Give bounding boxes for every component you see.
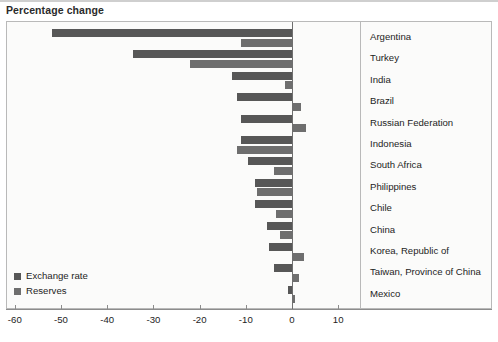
axis-tick [15, 305, 16, 310]
axis-tick-label: -60 [8, 314, 22, 325]
country-label: Argentina [370, 32, 411, 42]
bar-exchange-rate [241, 115, 292, 123]
bar-exchange-rate [274, 264, 292, 272]
legend-swatch-icon [14, 273, 21, 280]
axis-tick [153, 305, 154, 310]
country-label: Turkey [370, 53, 399, 63]
axis-tick-label: -40 [100, 314, 114, 325]
bar-reserves [280, 231, 292, 239]
country-label: Indonesia [370, 139, 412, 149]
x-axis: -60-50-40-30-20-10010 [6, 309, 492, 342]
legend-item: Exchange rate [14, 270, 88, 282]
country-label: Mexico [370, 289, 400, 299]
axis-tick-label: -10 [239, 314, 253, 325]
bar-exchange-rate [232, 72, 292, 80]
axis-tick [107, 305, 108, 310]
country-label: South Africa [370, 160, 422, 170]
bar-exchange-rate [267, 222, 292, 230]
axis-tick [338, 305, 339, 310]
country-label: Korea, Republic of [370, 246, 449, 256]
country-label: India [370, 75, 391, 85]
bar-reserves [257, 188, 292, 196]
bar-exchange-rate [248, 157, 292, 165]
bar-exchange-rate [52, 29, 292, 37]
country-label: Russian Federation [370, 118, 453, 128]
bar-reserves [190, 60, 292, 68]
bar-reserves [292, 103, 301, 111]
bar-reserves [237, 146, 292, 154]
label-column-divider [360, 21, 361, 309]
axis-tick [200, 305, 201, 310]
bar-exchange-rate [237, 93, 292, 101]
zero-line [292, 22, 293, 309]
legend-label: Exchange rate [26, 271, 88, 281]
country-label: China [370, 225, 395, 235]
legend-item: Reserves [14, 285, 88, 297]
bar-exchange-rate [255, 179, 292, 187]
country-label: Taiwan, Province of China [370, 267, 481, 277]
chart-title: Percentage change [6, 4, 104, 16]
bar-reserves [292, 253, 304, 261]
bar-exchange-rate [269, 243, 292, 251]
axis-tick-label: 0 [289, 314, 294, 325]
bar-reserves [292, 274, 299, 282]
top-divider [0, 0, 498, 2]
axis-tick [61, 305, 62, 310]
bar-reserves [292, 124, 306, 132]
bar-reserves [274, 167, 292, 175]
country-label: Brazil [370, 96, 394, 106]
axis-tick-label: 10 [333, 314, 344, 325]
bar-reserves [276, 210, 292, 218]
bar-reserves [285, 81, 292, 89]
bar-exchange-rate [133, 50, 292, 58]
country-label: Chile [370, 203, 392, 213]
axis-tick-label: -50 [54, 314, 68, 325]
chart-legend: Exchange rateReserves [14, 270, 88, 300]
legend-swatch-icon [14, 288, 21, 295]
axis-tick [246, 305, 247, 310]
axis-tick-label: -30 [146, 314, 160, 325]
bar-exchange-rate [241, 136, 292, 144]
country-label: Philippines [370, 182, 416, 192]
x-axis-line [6, 309, 492, 310]
legend-label: Reserves [26, 286, 67, 296]
bar-reserves [241, 39, 292, 47]
axis-tick-label: -20 [193, 314, 207, 325]
bar-exchange-rate [255, 200, 292, 208]
